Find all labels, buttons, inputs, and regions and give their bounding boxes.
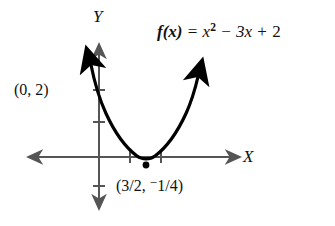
function-argument: (x) [163,22,183,41]
vertex-label-prefix: (3/2, [116,177,150,194]
function-equation-label: f(x) = x2 − 3x + 2 [157,22,281,40]
term-1-exponent: 2 [210,21,216,34]
parabola-left-arrow [88,52,91,64]
parabola-path [89,57,198,159]
equals-sign: = [187,22,199,41]
y-intercept-label: (0, 2) [14,82,49,98]
function-graph-figure: Y X (0, 2) (3/2, −1/4) f(x) = x2 − 3x + … [0,0,335,226]
term-3: 2 [272,22,281,41]
x-axis-label: X [243,148,253,165]
operator-plus: + [256,22,268,41]
operator-minus: − [220,22,232,41]
vertex-label: (3/2, −1/4) [116,176,183,194]
parabola-curve [88,52,202,159]
y-axis-label: Y [93,8,102,25]
vertex-label-value: 1/4) [157,177,183,194]
term-1-base: x [203,22,211,41]
term-2: 3x [236,22,252,41]
parabola-right-arrow [198,64,201,76]
y-axis [93,44,105,209]
vertex-point-marker [143,162,150,169]
